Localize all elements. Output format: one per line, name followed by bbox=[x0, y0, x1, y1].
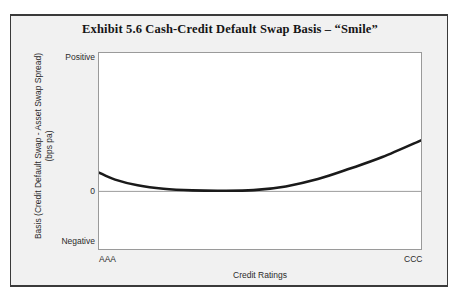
x-tick-aaa: AAA bbox=[99, 254, 116, 264]
y-tick-negative: Negative bbox=[61, 236, 95, 246]
plot-area bbox=[98, 52, 422, 250]
x-tick-ccc: CCC bbox=[404, 254, 422, 264]
y-tick-zero: 0 bbox=[90, 186, 95, 196]
basis-smile-curve bbox=[99, 140, 421, 191]
y-axis-tick-labels: Positive 0 Negative bbox=[41, 52, 95, 250]
chart-screenshot: Exhibit 5.6 Cash-Credit Default Swap Bas… bbox=[0, 0, 458, 298]
x-axis-title: Credit Ratings bbox=[98, 270, 422, 280]
plot-svg bbox=[99, 53, 421, 249]
y-tick-positive: Positive bbox=[65, 52, 95, 62]
chart-title: Exhibit 5.6 Cash-Credit Default Swap Bas… bbox=[11, 22, 449, 37]
exhibit-frame: Exhibit 5.6 Cash-Credit Default Swap Bas… bbox=[10, 14, 448, 287]
